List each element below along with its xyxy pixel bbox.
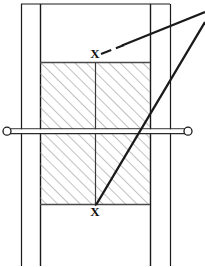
leader-dashed-segment [101,45,124,54]
section-mark-top-label: X [90,46,100,61]
horizontal-rod-group [3,127,192,135]
leader-dashed-solid-tail [122,12,205,46]
section-mark-bottom-label: X [90,204,100,219]
rod-body-fill [8,129,187,133]
rod-right-end-circle [184,127,192,135]
rod-left-end-circle [3,127,11,135]
drawing-canvas: X X [0,0,205,267]
technical-drawing-figure: X X [0,0,205,267]
